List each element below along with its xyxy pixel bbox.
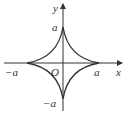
tick-x-neg: −a — [5, 66, 18, 78]
astroid-diagram: y x O a −a a −a — [0, 0, 130, 113]
tick-y-neg: −a — [43, 97, 56, 109]
x-axis-label: x — [115, 66, 121, 78]
origin-label: O — [51, 66, 59, 78]
y-axis-label: y — [52, 2, 58, 14]
tick-y-pos: a — [52, 21, 58, 33]
tick-x-pos: a — [94, 66, 100, 78]
